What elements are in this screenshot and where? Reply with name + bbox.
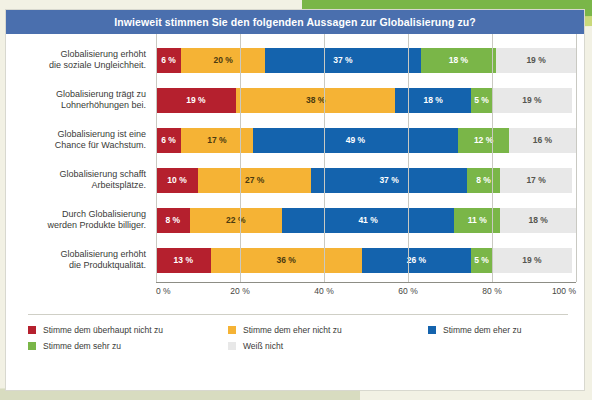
x-axis-tick-label: 60 % xyxy=(398,286,417,296)
bar-rows: Globalisierung erhöht die soziale Unglei… xyxy=(6,40,584,280)
bar-segment: 18 % xyxy=(500,208,576,233)
stacked-bar: 19 %38 %18 %5 %19 % xyxy=(156,88,576,113)
legend-item: Stimme dem eher nicht zu xyxy=(228,323,428,337)
bar-segment: 17 % xyxy=(181,128,252,153)
bar-segment: 49 % xyxy=(253,128,459,153)
bar-segment: 12 % xyxy=(458,128,508,153)
bar-segment: 20 % xyxy=(181,48,265,73)
legend-item: Stimme dem eher zu xyxy=(428,323,568,337)
legend-item: Stimme dem sehr zu xyxy=(28,339,228,353)
bar-row: Globalisierung trägt zu Lohnerhöhungen b… xyxy=(6,80,584,120)
bar-segment: 17 % xyxy=(500,168,571,193)
bar-segment: 18 % xyxy=(395,88,471,113)
bar-segment: 6 % xyxy=(156,48,181,73)
bar-segment: 11 % xyxy=(454,208,500,233)
bar-segment: 13 % xyxy=(156,248,211,273)
bar-row-label: Globalisierung trägt zu Lohnerhöhungen b… xyxy=(6,89,156,112)
bar-segment: 19 % xyxy=(156,88,236,113)
bar-segment: 16 % xyxy=(509,128,576,153)
x-axis-tick-label: 20 % xyxy=(230,286,249,296)
x-axis-tick-label: 0 % xyxy=(156,286,171,296)
x-axis-ticks: 0 %20 %40 %60 %80 %100 % xyxy=(156,282,576,283)
bar-segment: 6 % xyxy=(156,128,181,153)
stacked-bar: 13 %36 %26 %5 %19 % xyxy=(156,248,576,273)
chart-title: Inwieweit stimmen Sie den folgenden Auss… xyxy=(114,16,476,28)
bar-row: Globalisierung erhöht die Produktqualitä… xyxy=(6,240,584,280)
legend-label: Stimme dem überhaupt nicht zu xyxy=(43,325,163,335)
bar-segment: 8 % xyxy=(156,208,190,233)
bar-row-label: Globalisierung erhöht die Produktqualitä… xyxy=(6,249,156,272)
bar-segment: 10 % xyxy=(156,168,198,193)
legend-label: Stimme dem sehr zu xyxy=(43,341,121,351)
legend-swatch-icon xyxy=(28,342,36,350)
bar-row-label: Globalisierung schafft Arbeitsplätze. xyxy=(6,169,156,192)
chart-panel: Inwieweit stimmen Sie den folgenden Auss… xyxy=(6,10,584,390)
bar-segment: 5 % xyxy=(471,248,492,273)
bar-row-label: Globalisierung ist eine Chance für Wachs… xyxy=(6,129,156,152)
stacked-bar: 10 %27 %37 %8 %17 % xyxy=(156,168,576,193)
bar-segment: 36 % xyxy=(211,248,362,273)
bar-row-label: Globalisierung erhöht die soziale Unglei… xyxy=(6,49,156,72)
stacked-bar: 8 %22 %41 %11 %18 % xyxy=(156,208,576,233)
legend-swatch-icon xyxy=(228,342,236,350)
legend-label: Stimme dem eher nicht zu xyxy=(243,325,342,335)
legend-item: Weiß nicht xyxy=(228,339,428,353)
stacked-bar: 6 %17 %49 %12 %16 % xyxy=(156,128,576,153)
legend-swatch-icon xyxy=(28,326,36,334)
bar-segment: 22 % xyxy=(190,208,282,233)
bar-segment: 41 % xyxy=(282,208,454,233)
bar-segment: 37 % xyxy=(265,48,420,73)
x-axis-tick-label: 40 % xyxy=(314,286,333,296)
bar-segment: 37 % xyxy=(311,168,466,193)
x-axis-tick-label: 100 % xyxy=(552,286,576,296)
bar-row: Globalisierung ist eine Chance für Wachs… xyxy=(6,120,584,160)
bar-segment: 26 % xyxy=(362,248,471,273)
chart-title-bar: Inwieweit stimmen Sie den folgenden Auss… xyxy=(6,10,584,34)
plot-area: Globalisierung erhöht die soziale Unglei… xyxy=(6,34,584,304)
bar-segment: 38 % xyxy=(236,88,396,113)
bar-segment: 8 % xyxy=(467,168,501,193)
legend-label: Weiß nicht xyxy=(243,341,283,351)
stacked-bar: 6 %20 %37 %18 %19 % xyxy=(156,48,576,73)
chart-legend: Stimme dem überhaupt nicht zuStimme dem … xyxy=(28,314,568,353)
bar-segment: 19 % xyxy=(496,48,576,73)
bar-segment: 5 % xyxy=(471,88,492,113)
bar-row: Globalisierung erhöht die soziale Unglei… xyxy=(6,40,584,80)
bar-segment: 18 % xyxy=(421,48,497,73)
bar-row-label: Durch Globalisierung werden Produkte bil… xyxy=(6,209,156,232)
bar-segment: 19 % xyxy=(492,248,572,273)
x-axis: 0 %20 %40 %60 %80 %100 % xyxy=(6,282,584,304)
x-axis-tick-label: 80 % xyxy=(482,286,501,296)
bar-row: Durch Globalisierung werden Produkte bil… xyxy=(6,200,584,240)
legend-swatch-icon xyxy=(228,326,236,334)
legend-item: Stimme dem überhaupt nicht zu xyxy=(28,323,228,337)
bar-segment: 27 % xyxy=(198,168,311,193)
bar-row: Globalisierung schafft Arbeitsplätze.10 … xyxy=(6,160,584,200)
legend-swatch-icon xyxy=(428,326,436,334)
legend-label: Stimme dem eher zu xyxy=(443,325,521,335)
bar-segment: 19 % xyxy=(492,88,572,113)
